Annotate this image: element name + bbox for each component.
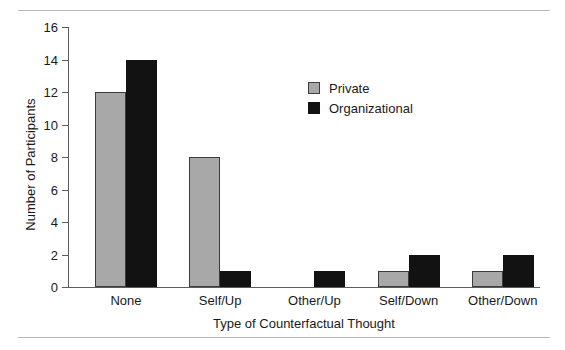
legend-swatch-icon bbox=[308, 102, 320, 114]
chart-legend: PrivateOrganizational bbox=[308, 78, 413, 118]
bar-organizational-self-down bbox=[409, 255, 440, 288]
bar-private-self-up bbox=[189, 157, 220, 287]
x-axis-title: Type of Counterfactual Thought bbox=[68, 316, 540, 331]
bottom-divider-rule bbox=[18, 337, 550, 338]
x-axis-tick-label: Other/Up bbox=[264, 293, 364, 308]
bar-private-other-down bbox=[472, 271, 503, 287]
bar-organizational-other-down bbox=[503, 255, 534, 288]
legend-item: Organizational bbox=[308, 98, 413, 118]
bar-group bbox=[189, 27, 251, 287]
bar-organizational-self-up bbox=[220, 271, 251, 287]
bar-group bbox=[283, 27, 345, 287]
y-axis-tick bbox=[62, 190, 68, 191]
bar-group bbox=[95, 27, 157, 287]
legend-label: Organizational bbox=[329, 102, 413, 115]
bar-group bbox=[378, 27, 440, 287]
bar-private-none bbox=[95, 92, 126, 287]
y-axis-tick bbox=[62, 60, 68, 61]
y-axis-tick-label: 16 bbox=[28, 21, 58, 34]
y-axis-tick bbox=[62, 27, 68, 28]
y-axis-tick bbox=[62, 92, 68, 93]
bar-group bbox=[472, 27, 534, 287]
x-axis-tick-label: None bbox=[76, 293, 176, 308]
x-axis-line bbox=[68, 287, 540, 288]
y-axis-tick bbox=[62, 125, 68, 126]
x-axis-tick-label: Self/Down bbox=[359, 293, 459, 308]
x-axis-tick-label: Other/Down bbox=[453, 293, 553, 308]
y-axis-title: Number of Participants bbox=[23, 65, 38, 265]
y-axis-tick-label: 0 bbox=[28, 281, 58, 294]
bar-private-self-down bbox=[378, 271, 409, 287]
plot-area bbox=[69, 27, 540, 287]
bar-organizational-none bbox=[126, 60, 157, 288]
y-axis-tick-label-wrap: 0 bbox=[28, 287, 58, 300]
top-divider-rule bbox=[18, 10, 550, 11]
legend-label: Private bbox=[329, 82, 369, 95]
y-axis-tick bbox=[62, 157, 68, 158]
x-axis-tick-label: Self/Up bbox=[170, 293, 270, 308]
bar-chart-figure: 0246810121416 Number of Participants Non… bbox=[0, 0, 565, 350]
y-axis-tick-label-wrap: 16 bbox=[28, 27, 58, 40]
legend-swatch-icon bbox=[308, 82, 320, 94]
y-axis-tick bbox=[62, 287, 68, 288]
y-axis-tick bbox=[62, 222, 68, 223]
bar-organizational-other-up bbox=[314, 271, 345, 287]
legend-item: Private bbox=[308, 78, 413, 98]
y-axis-tick bbox=[62, 255, 68, 256]
